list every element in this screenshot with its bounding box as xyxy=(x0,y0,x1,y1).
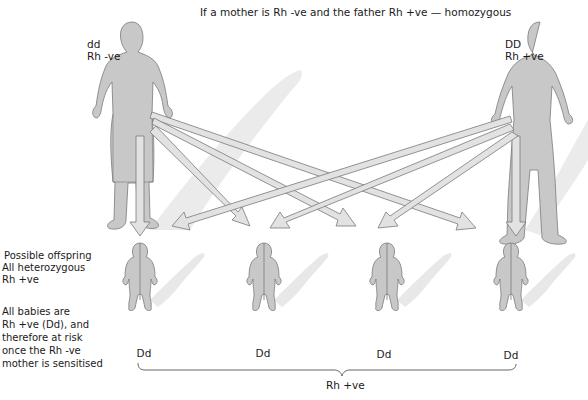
father-phenotype: Rh +ve xyxy=(505,50,544,62)
father-genotype: DD xyxy=(505,38,521,50)
risk-note-1: All babies are xyxy=(2,306,70,319)
mother-phenotype: Rh -ve xyxy=(87,50,120,62)
baby-1-genotype: Dd xyxy=(124,347,164,359)
baby-4-genotype: Dd xyxy=(491,349,531,361)
bracket-label: Rh +ve xyxy=(326,379,365,391)
inheritance-arrows xyxy=(130,112,526,236)
offspring-note-2: All heterozygous xyxy=(2,262,85,275)
risk-note-3: therefore at risk xyxy=(2,332,82,345)
mother-genotype: dd xyxy=(87,38,100,50)
risk-note-5: mother is sensitised xyxy=(2,358,103,371)
baby-2-genotype: Dd xyxy=(243,347,283,359)
baby-4 xyxy=(494,243,576,311)
baby-3-genotype: Dd xyxy=(364,348,404,360)
diagram-title: If a mother is Rh -ve and the father Rh … xyxy=(200,6,511,18)
offspring-note-3: Rh +ve xyxy=(2,274,39,287)
baby-1 xyxy=(123,243,205,311)
risk-note-4: once the Rh -ve xyxy=(2,345,81,358)
risk-note-2: Rh +ve (Dd), and xyxy=(2,319,89,332)
offspring-note-1: Possible offspring xyxy=(4,250,92,263)
baby-3 xyxy=(370,243,452,311)
baby-2 xyxy=(247,243,329,311)
offspring-bracket xyxy=(138,363,516,376)
